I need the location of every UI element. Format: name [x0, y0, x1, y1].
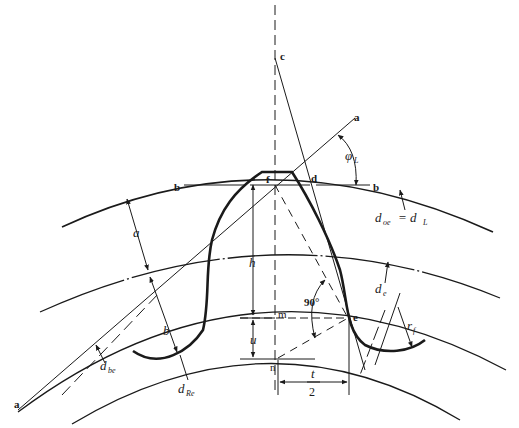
diagram-svg: c a a b b f d m e n a b h u 90° t 2 φ L … [0, 0, 519, 428]
point-c-label: c [280, 50, 285, 62]
svg-text:Re: Re [185, 389, 195, 398]
fillet-construction-1 [375, 293, 400, 365]
gear-tooth-diagram: c a a b b f d m e n a b h u 90° t 2 φ L … [0, 0, 519, 428]
svg-text:= d: = d [398, 210, 417, 225]
outside-circle-label: d oe = d L [375, 210, 428, 227]
tooth-profile [133, 172, 425, 359]
angle-90-arc [312, 280, 325, 338]
root-circle-label: d Re [178, 381, 195, 398]
base-circle-arc [18, 312, 506, 412]
svg-text:L: L [353, 156, 359, 165]
point-n-label: n [270, 361, 276, 373]
fillet-radius-label: r f [407, 318, 417, 335]
base-circle-label: d be [100, 358, 116, 375]
u-label: u [250, 332, 257, 347]
svg-text:be: be [108, 366, 116, 375]
line-a-a-dashed [62, 292, 160, 395]
line-a-a [18, 118, 355, 410]
leader-outside [400, 190, 405, 210]
line-n-e [278, 318, 348, 358]
pitch-circle-arc [40, 255, 500, 312]
leader-pitch [385, 262, 388, 283]
pitch-circle-label: d e [375, 281, 387, 298]
svg-text:d: d [178, 381, 185, 396]
svg-text:d: d [375, 210, 382, 225]
point-d-label: d [311, 172, 317, 184]
point-e-label: e [353, 311, 358, 323]
dim-line-dedendum [150, 277, 177, 352]
svg-text:f: f [413, 326, 417, 335]
angle-90-label: 90° [304, 296, 319, 308]
point-m-label: m [278, 308, 287, 320]
dedendum-label: b [163, 323, 170, 338]
point-b-right-label: b [373, 181, 379, 193]
svg-text:L: L [422, 218, 428, 227]
svg-text:oe: oe [383, 218, 391, 227]
point-f-label: f [266, 173, 270, 185]
addendum-label: a [133, 225, 140, 240]
point-a-top-label: a [354, 111, 360, 123]
svg-text:d: d [100, 358, 107, 373]
point-a-bottom-label: a [14, 398, 20, 410]
svg-text:φ: φ [345, 148, 352, 163]
point-b-left-label: b [174, 181, 180, 193]
outside-circle-arc [62, 180, 493, 232]
height-label: h [249, 255, 256, 270]
t-half-denominator: 2 [309, 385, 315, 399]
t-half-numerator: t [311, 366, 315, 381]
svg-text:d: d [375, 281, 382, 296]
svg-text:e: e [383, 289, 387, 298]
root-circle-arc [72, 363, 460, 424]
phi-L-label: φ L [345, 148, 359, 165]
